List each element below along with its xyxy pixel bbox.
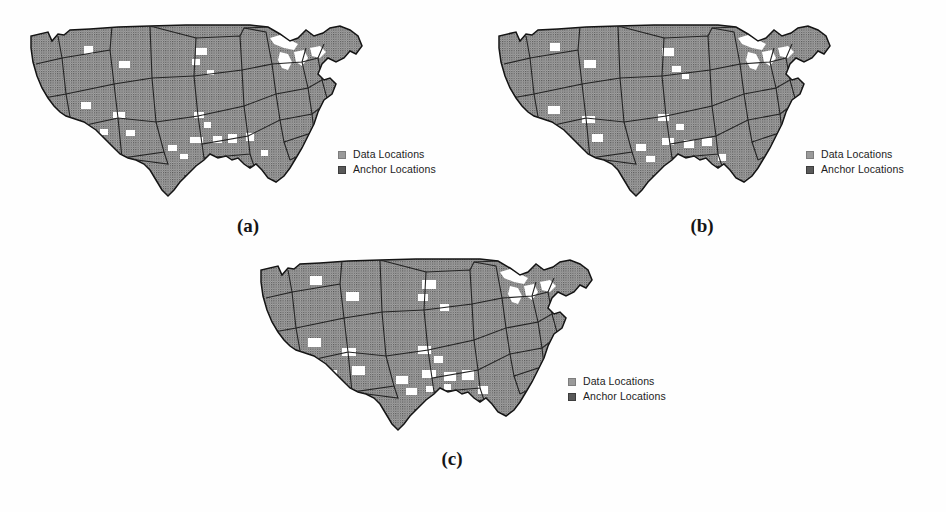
figure-root: Data Locations Anchor Locations (a): [0, 0, 946, 512]
map-fill-c: [248, 252, 598, 447]
legend-swatch-anchor-icon: [806, 166, 814, 174]
legend-swatch-data-icon: [568, 378, 576, 386]
legend-panel-c: Data Locations Anchor Locations: [568, 375, 666, 403]
legend-row-anchor-b: Anchor Locations: [806, 163, 904, 176]
legend-row-data-a: Data Locations: [338, 148, 436, 161]
legend-label-anchor: Anchor Locations: [821, 163, 904, 176]
legend-row-anchor-a: Anchor Locations: [338, 163, 436, 176]
legend-label-data: Data Locations: [821, 148, 892, 161]
us-map-svg-c: [248, 252, 598, 447]
subfigure-caption-c: (c): [412, 448, 492, 470]
legend-row-data-c: Data Locations: [568, 375, 666, 388]
map-fill-a: [18, 18, 368, 213]
map-canvas-a: [18, 18, 368, 213]
legend-swatch-data-icon: [806, 151, 814, 159]
legend-swatch-data-icon: [338, 151, 346, 159]
subfigure-caption-a: (a): [208, 215, 288, 237]
us-map-svg-b: [486, 18, 836, 213]
map-canvas-b: [486, 18, 836, 213]
legend-label-anchor: Anchor Locations: [353, 163, 436, 176]
map-panel-a: Data Locations Anchor Locations: [18, 18, 368, 213]
map-fill-b: [486, 18, 836, 213]
legend-label-data: Data Locations: [583, 375, 654, 388]
subfigure-caption-b: (b): [662, 215, 742, 237]
map-panel-b: Data Locations Anchor Locations: [486, 18, 836, 213]
legend-row-data-b: Data Locations: [806, 148, 904, 161]
map-panel-c: Data Locations Anchor Locations: [248, 252, 598, 447]
map-canvas-c: [248, 252, 598, 447]
legend-swatch-anchor-icon: [568, 393, 576, 401]
legend-panel-b: Data Locations Anchor Locations: [806, 148, 904, 176]
legend-row-anchor-c: Anchor Locations: [568, 390, 666, 403]
us-map-svg-a: [18, 18, 368, 213]
legend-panel-a: Data Locations Anchor Locations: [338, 148, 436, 176]
legend-label-anchor: Anchor Locations: [583, 390, 666, 403]
legend-swatch-anchor-icon: [338, 166, 346, 174]
legend-label-data: Data Locations: [353, 148, 424, 161]
